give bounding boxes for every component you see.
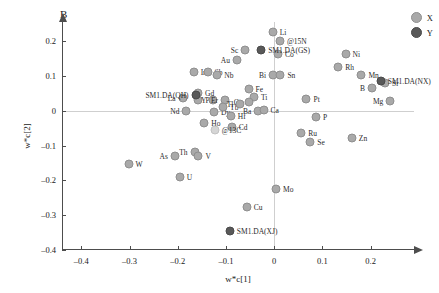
data-point-label: Pt [313, 94, 319, 103]
data-point-label: Sc [231, 45, 239, 54]
data-point-label: Rh [345, 63, 354, 72]
data-point-label: Tl [227, 99, 234, 108]
data-point-cu[interactable] [242, 202, 251, 211]
data-point-label: Se [317, 138, 325, 147]
y-tick [62, 41, 66, 42]
data-point-mn[interactable] [357, 70, 366, 79]
legend-label-y: Y [427, 28, 433, 38]
x-tick-label: –0.3 [122, 256, 137, 266]
data-point-p[interactable] [312, 112, 321, 121]
x-axis-arrow-icon [414, 246, 423, 254]
data-point-zn[interactable] [347, 134, 356, 143]
data-point-13c[interactable] [210, 125, 219, 134]
data-point-sm1-da-gs[interactable] [257, 45, 266, 54]
data-point-label: Nb [224, 70, 233, 79]
data-point-label: Gd [205, 88, 214, 97]
data-point-label: Mo [283, 185, 293, 194]
data-point-li[interactable] [268, 28, 277, 37]
data-point-sm1-da-qh[interactable] [191, 90, 200, 99]
data-point-label: Nd [170, 107, 179, 116]
data-point-nd[interactable] [182, 107, 191, 116]
data-point-label: Er [211, 96, 218, 105]
y-tick [62, 180, 66, 181]
data-point-label: U [187, 172, 192, 181]
x-tick [322, 246, 323, 250]
data-point-label: Au [221, 55, 230, 64]
x-tick [81, 246, 82, 250]
data-point-label: @13C [222, 125, 241, 134]
y-tick-label: –0.2 [32, 175, 56, 185]
data-point-label: As [159, 152, 167, 161]
data-point-b[interactable] [368, 83, 377, 92]
data-point-label: Ti [261, 92, 267, 101]
y-tick-label: 0 [32, 106, 56, 116]
data-point-au[interactable] [233, 55, 242, 64]
y-tick [62, 146, 66, 147]
y-tick-label: 0.2 [32, 36, 56, 46]
data-point-label: Zn [359, 134, 367, 143]
data-point-dy[interactable] [209, 108, 218, 117]
data-point-sm1-da-nx[interactable] [376, 76, 385, 85]
data-point-label: Ca [271, 106, 279, 115]
x-axis-line [62, 249, 414, 250]
legend-entry-y[interactable]: Y [411, 27, 433, 38]
y-tick-label: –0.3 [32, 210, 56, 220]
x-tick-label: –0.4 [74, 256, 89, 266]
x-tick-label: 0 [272, 256, 276, 266]
plot-inner: WAsUThVNdLaIrSbNbPrYDyHoErTbHfCd@13CScAu… [62, 22, 414, 250]
data-point-15n[interactable] [275, 36, 284, 45]
y-tick [62, 111, 66, 112]
data-point-v[interactable] [194, 152, 203, 161]
x-tick [226, 246, 227, 250]
y-tick-label: –0.1 [32, 141, 56, 151]
data-point-label: SM1.DA(GS) [268, 45, 310, 54]
x-tick [178, 246, 179, 250]
data-point-rh[interactable] [334, 63, 343, 72]
data-point-se[interactable] [306, 138, 315, 147]
data-point-label: Sn [287, 70, 295, 79]
y-tick-label: –0.4 [32, 245, 56, 255]
x-tick-label: –0.2 [170, 256, 185, 266]
legend-entry-x[interactable]: X [411, 12, 433, 23]
legend-label-x: X [427, 13, 433, 23]
x-tick-label: 0.2 [365, 256, 376, 266]
data-point-label: Ni [353, 50, 361, 59]
data-point-label: P [323, 112, 327, 121]
data-point-ru[interactable] [297, 128, 306, 137]
data-point-mo[interactable] [272, 185, 281, 194]
x-tick-label: 0.1 [317, 256, 328, 266]
data-point-pt[interactable] [302, 94, 311, 103]
data-point-ho[interactable] [200, 118, 209, 127]
data-point-u[interactable] [175, 172, 184, 181]
data-point-label: Th [179, 147, 187, 156]
data-point-label: SM1.DA(QH) [145, 90, 188, 99]
y-tick [62, 250, 66, 251]
data-point-label: V [205, 152, 210, 161]
data-point-mg[interactable] [386, 96, 395, 105]
data-point-ir[interactable] [189, 67, 198, 76]
data-point-ni[interactable] [341, 50, 350, 59]
data-point-sc[interactable] [241, 45, 250, 54]
x-tick [130, 246, 131, 250]
data-point-sn[interactable] [276, 70, 285, 79]
x-tick [274, 246, 275, 250]
data-point-as[interactable] [170, 152, 179, 161]
data-point-label: Mg [373, 96, 383, 105]
data-point-label: SM1.DA(XJ) [237, 226, 278, 235]
y-tick-label: 0.1 [32, 71, 56, 81]
data-point-label: Ru [308, 128, 317, 137]
plot-area: WAsUThVNdLaIrSbNbPrYDyHoErTbHfCd@13CScAu… [62, 22, 414, 250]
data-point-sm1-da-xj[interactable] [225, 226, 234, 235]
chart-root: B X Y WAsUThVNdLaIrSbNbPrYDyHoErTbHfCd@1… [0, 0, 439, 293]
x-tick-label: –0.1 [219, 256, 234, 266]
data-point-nb[interactable] [213, 70, 222, 79]
data-point-sb[interactable] [203, 67, 212, 76]
data-point-ca[interactable] [259, 106, 268, 115]
data-point-w[interactable] [124, 159, 133, 168]
y-axis-title: w*c[2] [22, 123, 32, 149]
x-axis-title: w*c[1] [225, 274, 251, 284]
y-axis-arrow-icon [59, 13, 67, 22]
data-point-hf[interactable] [226, 111, 235, 120]
data-point-label: B [360, 83, 365, 92]
data-point-label: @15N [287, 36, 307, 45]
